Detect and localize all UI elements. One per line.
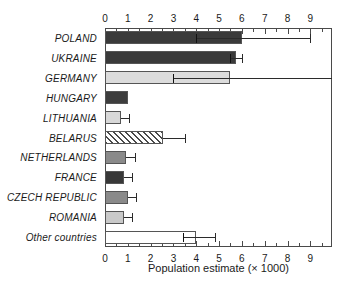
y-axis-category-label: UKRAINE (51, 52, 97, 63)
error-bar-cap-high (185, 134, 186, 143)
x-axis-title: Population estimate (× 1000) (105, 262, 332, 274)
error-bar-cap-low (230, 54, 231, 63)
x-axis-tick-label: 0 (102, 13, 108, 24)
error-bar (196, 38, 310, 39)
error-bar (163, 138, 185, 139)
y-axis-category-label: Other countries (26, 232, 97, 243)
bars-container (105, 28, 332, 247)
bar (105, 51, 236, 64)
error-bar (124, 177, 132, 178)
error-bar-cap-high (129, 114, 130, 123)
error-bar-cap-high (215, 233, 216, 242)
x-axis-tick-label: 2 (148, 13, 154, 24)
error-bar (121, 118, 129, 119)
error-bar-cap-high (132, 173, 133, 182)
bar (105, 131, 163, 144)
error-bar (124, 217, 132, 218)
chart-figure: 0123456789 0123456789 POLANDUKRAINEGERMA… (0, 0, 355, 285)
bar (105, 151, 126, 164)
x-axis-tick-label: 3 (171, 13, 177, 24)
bar (105, 211, 124, 224)
error-bar-cap-low (173, 74, 174, 83)
y-axis-category-label: POLAND (55, 32, 97, 43)
error-bar-cap-high (135, 153, 136, 162)
x-axis-tick-label: 4 (193, 13, 199, 24)
error-bar (128, 197, 136, 198)
y-axis-category-label: BELARUS (49, 132, 97, 143)
y-axis-category-label: HUNGARY (46, 92, 97, 103)
x-axis-tick-label: 6 (239, 13, 245, 24)
y-axis-category-label: ROMANIA (49, 212, 97, 223)
y-axis-category-label: FRANCE (55, 172, 97, 183)
error-bar-cap-high (136, 193, 137, 202)
error-bar (126, 157, 135, 158)
y-axis-category-label: NETHERLANDS (20, 152, 97, 163)
y-axis-category-label: CZECH REPUBLIC (7, 192, 97, 203)
error-bar-cap-high (132, 213, 133, 222)
x-axis-tick-label: 9 (308, 13, 314, 24)
error-bar-cap-low (196, 34, 197, 43)
y-axis-category-labels: POLANDUKRAINEGERMANYHUNGARYLITHUANIABELA… (0, 28, 101, 247)
error-bar-cap-high (242, 54, 243, 63)
bar (105, 191, 128, 204)
error-bar-cap-low (183, 233, 184, 242)
bar (105, 171, 124, 184)
bar (105, 111, 121, 124)
y-axis-category-label: GERMANY (45, 72, 97, 83)
error-bar (173, 78, 332, 79)
y-axis-category-label: LITHUANIA (43, 112, 97, 123)
x-axis-tick-label: 7 (262, 13, 268, 24)
x-axis-tick-label: 8 (285, 13, 291, 24)
error-bar (230, 58, 241, 59)
x-axis-tick-label: 5 (216, 13, 222, 24)
error-bar-cap-high (310, 34, 311, 43)
x-axis-tick-label: 1 (125, 13, 131, 24)
error-bar (183, 237, 215, 238)
bar (105, 91, 128, 104)
